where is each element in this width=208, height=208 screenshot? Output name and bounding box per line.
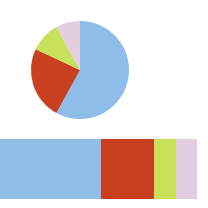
bar-segment-pink (176, 139, 197, 199)
stacked-bar-chart (0, 139, 197, 199)
bar-segment-red (101, 139, 154, 199)
pie-chart (0, 0, 208, 130)
bar-segment-blue (0, 139, 101, 199)
bar-segment-green (154, 139, 175, 199)
